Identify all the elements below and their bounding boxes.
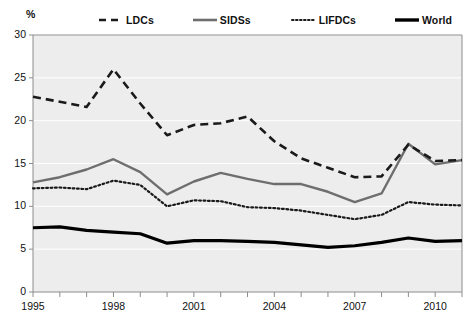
y-axis-tick-label-30: 30	[0, 28, 26, 40]
y-axis-tick-label-5: 5	[0, 242, 26, 254]
y-axis-tick-label-20: 20	[0, 114, 26, 126]
x-axis-tick-label-2004: 2004	[254, 300, 294, 312]
y-axis-tick-label-25: 25	[0, 71, 26, 83]
x-axis-tick-label-2001: 2001	[174, 300, 214, 312]
y-axis-tick-label-10: 10	[0, 199, 26, 211]
x-axis-tick-label-1995: 1995	[13, 300, 53, 312]
x-axis-tick-label-2007: 2007	[335, 300, 375, 312]
plot-area	[0, 0, 476, 324]
chart-container: LDCs SIDSs LIFDCs World % 30252015105019…	[0, 0, 476, 324]
y-axis-tick-label-15: 15	[0, 157, 26, 169]
x-axis-tick-label-2010: 2010	[415, 300, 455, 312]
y-axis-tick-label-0: 0	[0, 285, 26, 297]
x-axis-tick-label-1998: 1998	[93, 300, 133, 312]
